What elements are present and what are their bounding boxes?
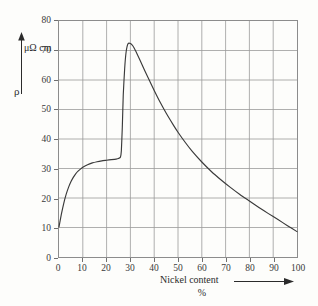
- x-tick-label: 70: [214, 263, 238, 273]
- x-tick-label: 40: [142, 263, 166, 273]
- x-axis-title: Nickel content: [160, 274, 219, 285]
- x-tick-label: 100: [286, 263, 310, 273]
- x-tick-mark: [130, 258, 131, 262]
- x-axis-unit-label: %: [182, 287, 222, 298]
- plot-area: [58, 20, 298, 258]
- y-axis-caption: μΩ cm ρ: [0, 18, 58, 118]
- y-tick-label: 0: [29, 253, 51, 263]
- x-tick-mark: [154, 258, 155, 262]
- x-tick-mark: [106, 258, 107, 262]
- x-tick-mark: [202, 258, 203, 262]
- x-tick-label: 80: [238, 263, 262, 273]
- y-tick-label: 40: [29, 134, 51, 144]
- x-tick-mark: [226, 258, 227, 262]
- y-tick-mark: [54, 258, 58, 259]
- x-tick-label: 20: [94, 263, 118, 273]
- y-axis-symbol-label: ρ: [14, 86, 20, 97]
- x-tick-label: 10: [70, 263, 94, 273]
- y-tick-label: 10: [29, 223, 51, 233]
- x-tick-mark: [274, 258, 275, 262]
- x-tick-label: 50: [166, 263, 190, 273]
- x-tick-mark: [82, 258, 83, 262]
- y-axis-unit-label: μΩ cm: [24, 42, 52, 53]
- resistivity-chart-figure: μΩ cm ρ 01020304050607080010203040506070…: [0, 0, 318, 306]
- y-tick-label: 20: [29, 194, 51, 204]
- resistivity-curve: [59, 21, 297, 257]
- x-axis-caption: Nickel content %: [160, 274, 310, 304]
- curve-path: [59, 43, 297, 231]
- x-tick-mark: [178, 258, 179, 262]
- x-tick-label: 0: [46, 263, 70, 273]
- x-tick-label: 60: [190, 263, 214, 273]
- x-tick-label: 30: [118, 263, 142, 273]
- x-tick-label: 90: [262, 263, 286, 273]
- x-axis-arrow-icon: [234, 277, 294, 286]
- x-tick-mark: [250, 258, 251, 262]
- y-tick-label: 30: [29, 164, 51, 174]
